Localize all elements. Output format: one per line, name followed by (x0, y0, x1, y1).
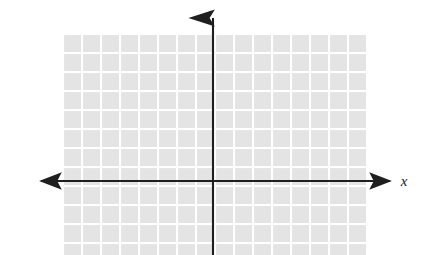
coordinate-plane-figure: x (0, 0, 433, 255)
x-axis-label: x (400, 173, 408, 189)
screenshot-root: x (0, 0, 433, 255)
coordinate-plane-svg: x (0, 0, 433, 255)
